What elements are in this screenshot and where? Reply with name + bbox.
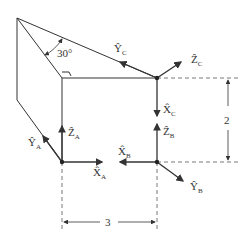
origin-a [60,160,64,164]
label-yb: ŶB [190,180,203,195]
origin-c [155,76,159,80]
block-outline [17,18,157,162]
label-zb: ẐB [163,125,175,140]
dashed-guides [62,78,240,232]
label-xa: X̂A [93,166,106,181]
origin-b [155,160,159,164]
label-xb: X̂B [118,145,131,160]
label-yc: ŶC [114,42,127,57]
label-zc: ẐC [191,53,203,68]
label-ya: ŶA [28,136,41,151]
label-za: ẐA [68,126,80,141]
frame-c [120,62,181,116]
angle-label: 30° [57,47,72,59]
dimension-width-label: 3 [105,216,111,228]
dimension-height-label: 2 [224,114,230,126]
label-xc: X̂C [163,103,176,118]
frame-diagram: 30° ŶC ẐC X̂C ẐB X̂B ŶB ŶA ẐA X̂A 2 [0,0,245,245]
